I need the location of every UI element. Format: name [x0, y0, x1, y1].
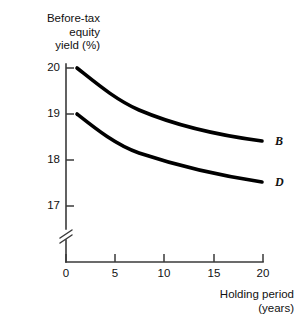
- y-tick-label-17: 17: [26, 200, 60, 212]
- y-tick-label-19: 19: [26, 108, 60, 120]
- y-tick-label-18: 18: [26, 154, 60, 166]
- x-tick-label-10: 10: [151, 268, 177, 280]
- x-tick-label-0: 0: [53, 268, 79, 280]
- y-tick-label-20: 20: [26, 62, 60, 74]
- curve-label-d: D: [275, 176, 284, 188]
- x-tick-label-5: 5: [102, 268, 128, 280]
- x-tick-label-15: 15: [201, 268, 227, 280]
- x-axis-title: Holding period (years): [150, 288, 294, 315]
- curve-label-b: B: [275, 135, 283, 147]
- x-tick-label-20: 20: [250, 268, 276, 280]
- chart-figure: Before-tax equity yield (%) 20 19 18 17 …: [0, 0, 299, 322]
- curve-series-d: [77, 114, 262, 182]
- curve-series-b: [77, 68, 262, 141]
